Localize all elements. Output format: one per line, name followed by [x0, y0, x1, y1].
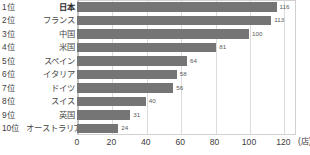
bar-group: 24 — [77, 124, 128, 134]
bar-value-label: 116 — [280, 4, 290, 10]
bar-row: 3位中国100 — [0, 27, 310, 41]
category-label: 日本 — [26, 3, 75, 11]
bar — [77, 16, 271, 26]
category-label: 中国 — [26, 30, 75, 38]
bar — [77, 97, 146, 107]
category-label: ドイツ — [26, 84, 75, 92]
bar-value-label: 81 — [219, 44, 226, 50]
category-label: スペイン — [26, 57, 75, 65]
rank-label: 8位 — [2, 97, 28, 105]
bar — [77, 110, 130, 120]
x-axis-unit-label: (店) — [298, 138, 310, 146]
bar-row: 6位イタリア58 — [0, 68, 310, 82]
rank-label: 3位 — [2, 30, 28, 38]
bar-group: 113 — [77, 16, 284, 26]
bar-row: 9位英国31 — [0, 108, 310, 122]
bar-group: 58 — [77, 70, 187, 80]
bar-row: 5位スペイン64 — [0, 54, 310, 68]
bar — [77, 2, 277, 12]
bar-value-label: 64 — [190, 58, 197, 64]
bar-group: 116 — [77, 2, 289, 12]
bar-group: 56 — [77, 83, 183, 93]
bar-rows: 1位日本1162位フランス1133位中国1004位米国815位スペイン646位イ… — [0, 0, 310, 135]
bar-value-label: 113 — [274, 17, 284, 23]
bar-value-label: 24 — [121, 125, 128, 131]
bar-group: 31 — [77, 110, 140, 120]
bar-row: 2位フランス113 — [0, 14, 310, 28]
category-label: 英国 — [26, 111, 75, 119]
x-tick-label-0: 0 — [75, 138, 80, 147]
bar-row: 7位ドイツ56 — [0, 81, 310, 95]
category-label: オーストラリア — [26, 124, 75, 132]
x-axis: (店) 020406080100120 — [0, 135, 310, 155]
rank-label: 9位 — [2, 111, 28, 119]
bar — [77, 43, 216, 53]
rank-label: 4位 — [2, 43, 28, 51]
bar-group: 100 — [77, 29, 262, 39]
bar-group: 64 — [77, 56, 197, 66]
rank-label: 5位 — [2, 57, 28, 65]
bar — [77, 83, 173, 93]
horizontal-bar-chart: 1位日本1162位フランス1133位中国1004位米国815位スペイン646位イ… — [0, 0, 310, 155]
category-label: フランス — [26, 16, 75, 24]
rank-label: 1位 — [2, 3, 28, 11]
bar-value-label: 56 — [176, 85, 183, 91]
bar — [77, 70, 177, 80]
bar-value-label: 31 — [133, 112, 140, 118]
x-tick-label-20: 20 — [107, 138, 117, 147]
bar-group: 40 — [77, 97, 156, 107]
x-tick-label-60: 60 — [175, 138, 185, 147]
bar-value-label: 100 — [252, 31, 262, 37]
category-label: 米国 — [26, 43, 75, 51]
x-tick-label-100: 100 — [242, 138, 256, 147]
x-tick-label-80: 80 — [210, 138, 220, 147]
rank-label: 10位 — [2, 124, 28, 132]
rank-label: 7位 — [2, 84, 28, 92]
bar — [77, 29, 249, 39]
bar-row: 1位日本116 — [0, 0, 310, 14]
bar-row: 10位オーストラリア24 — [0, 122, 310, 136]
bar — [77, 124, 118, 134]
bar-row: 8位スイス40 — [0, 95, 310, 109]
category-label: イタリア — [26, 70, 75, 78]
bar-value-label: 58 — [180, 71, 187, 77]
bar-value-label: 40 — [149, 98, 156, 104]
rank-label: 6位 — [2, 70, 28, 78]
x-tick-label-40: 40 — [141, 138, 151, 147]
category-label: スイス — [26, 97, 75, 105]
bar-row: 4位米国81 — [0, 41, 310, 55]
bar-group: 81 — [77, 43, 226, 53]
rank-label: 2位 — [2, 16, 28, 24]
x-tick-label-120: 120 — [276, 138, 290, 147]
bar — [77, 56, 187, 66]
